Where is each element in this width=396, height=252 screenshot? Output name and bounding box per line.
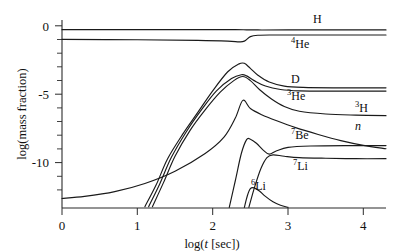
x-axis-title: log(t [sec]) [184, 237, 239, 251]
x-axis-title-suffix: [sec]) [208, 237, 240, 251]
curve-6Li [244, 188, 288, 208]
label-7Be-text: Be [295, 128, 308, 142]
abundance-chart: 0 1 2 3 4 0 -5 -10 log(mass fraction) lo… [0, 0, 396, 252]
x-tick-label-0: 0 [59, 218, 66, 233]
label-3H-text: H [359, 101, 368, 115]
label-7Li: 7Li [293, 157, 309, 173]
y-tick-label-0: 0 [43, 19, 50, 34]
label-H: H [313, 12, 322, 26]
y-axis-title: log(mass fraction) [15, 68, 29, 159]
x-axis-title-prefix: log( [184, 237, 204, 251]
x-tick-label-3: 3 [285, 218, 292, 233]
curve-label-group: H4HeD3He3Hn7Be7Li6Li [251, 12, 368, 193]
label-3H: 3H [355, 99, 368, 115]
x-tick-label-1: 1 [134, 218, 141, 233]
label-4He-text: He [295, 37, 309, 51]
label-7Li-text: Li [297, 159, 308, 173]
label-n: n [355, 119, 361, 133]
y-axis-ticks [55, 26, 62, 190]
label-3He-text: He [291, 89, 305, 103]
label-4He: 4He [291, 35, 309, 51]
y-tick-label-minus5: -5 [38, 87, 49, 102]
x-tick-label-4: 4 [360, 218, 367, 233]
figure-container: 0 1 2 3 4 0 -5 -10 log(mass fraction) lo… [0, 0, 396, 252]
label-n-text: n [355, 119, 361, 133]
label-D-text: D [291, 72, 300, 86]
y-tick-label-minus10: -10 [32, 155, 49, 170]
curve-group [62, 30, 386, 208]
label-H-text: H [313, 12, 322, 26]
x-axis-ticks [62, 208, 363, 215]
label-6Li-text: Li [255, 179, 266, 193]
curve-3H [152, 77, 386, 207]
label-3He: 3He [287, 87, 305, 103]
label-D: D [291, 72, 300, 86]
x-tick-label-2: 2 [209, 218, 216, 233]
label-7Be: 7Be [291, 126, 309, 142]
curve-4He [62, 35, 386, 42]
